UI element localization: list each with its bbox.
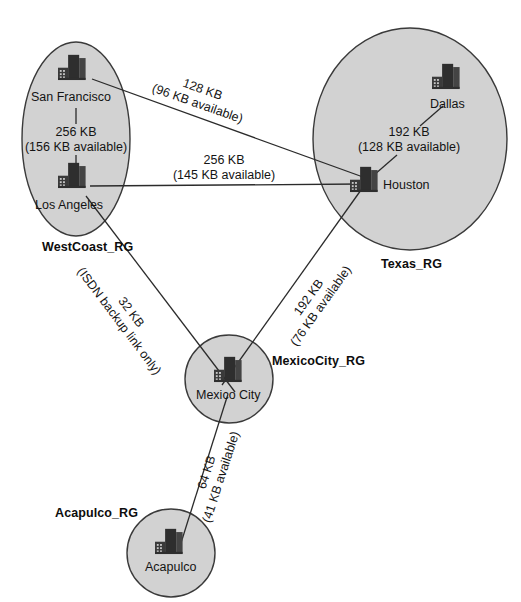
link-available-sf-la: (156 KB available) [0, 140, 152, 155]
link-speed-dallas-houston: 192 KB [388, 125, 429, 139]
site-label-los-angeles: Los Angeles [35, 198, 103, 213]
region-label-texas: Texas_RG [381, 257, 442, 272]
link-available-dallas-houston: (128 KB available) [333, 140, 485, 155]
site-label-san-francisco: San Francisco [31, 90, 111, 105]
link-label-sf-la: 256 KB (156 KB available) [0, 125, 152, 155]
site-label-houston: Houston [383, 178, 430, 193]
site-label-dallas: Dallas [430, 97, 465, 112]
site-label-acapulco: Acapulco [145, 560, 196, 575]
link-line-la-houston[interactable] [90, 184, 360, 186]
link-label-dallas-houston: 192 KB (128 KB available) [333, 125, 485, 155]
link-available-la-houston: (145 KB available) [144, 168, 304, 183]
link-label-la-houston: 256 KB (145 KB available) [144, 153, 304, 183]
link-speed-sf-la: 256 KB [55, 125, 96, 139]
region-label-acapulco: Acapulco_RG [55, 506, 138, 521]
link-speed-la-houston: 256 KB [203, 153, 244, 167]
